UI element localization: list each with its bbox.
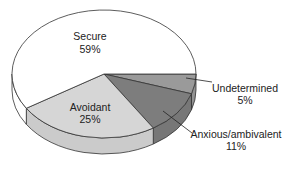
label-undetermined-pct: 5%	[237, 94, 252, 106]
label-avoidant-pct: 25%	[79, 113, 100, 125]
label-avoidant-name: Avoidant	[70, 101, 111, 113]
label-anxious-name: Anxious/ambivalent	[190, 128, 281, 140]
label-undetermined: Undetermined 5%	[212, 82, 278, 106]
label-secure-name: Secure	[73, 30, 106, 42]
label-secure-pct: 59%	[79, 43, 100, 55]
label-undetermined-name: Undetermined	[212, 82, 278, 94]
label-anxious-pct: 11%	[226, 140, 246, 152]
label-anxious: Anxious/ambivalent 11%	[190, 128, 281, 152]
pie-chart: Secure 59% Avoidant 25% Undetermined 5% …	[0, 0, 299, 169]
